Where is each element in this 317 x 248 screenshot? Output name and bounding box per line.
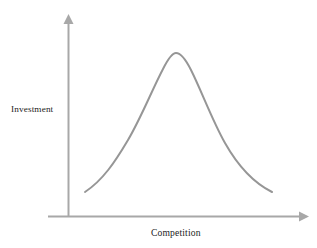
x-axis-label: Competition [0, 226, 317, 239]
plot-area [0, 0, 317, 248]
data-curve-investment [85, 53, 272, 192]
y-axis-label: Investment [11, 103, 53, 115]
arrow-up-icon [64, 14, 74, 24]
chart-figure: Investment Competition [0, 0, 317, 248]
arrow-right-icon [299, 212, 309, 222]
